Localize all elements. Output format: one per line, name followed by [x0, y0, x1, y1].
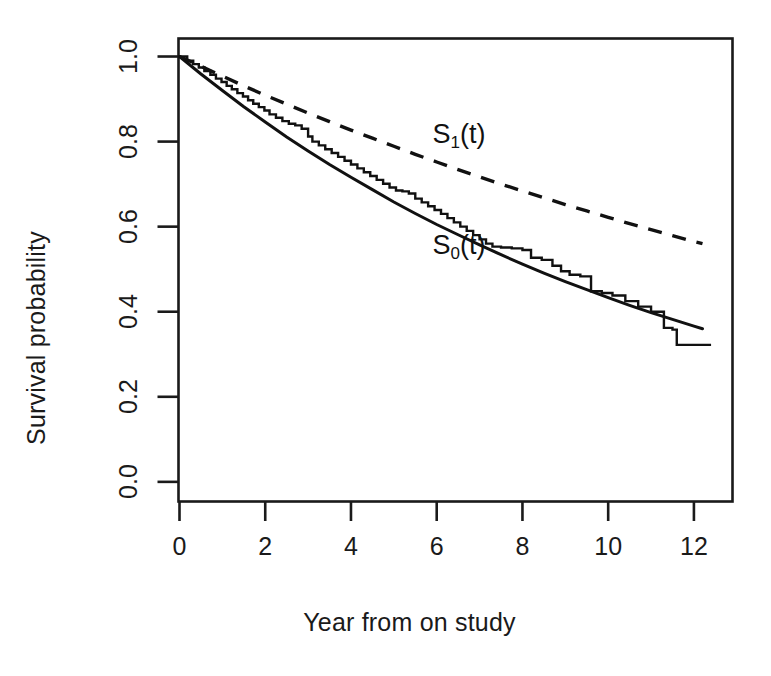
- s1-curve-label: S1(t): [432, 119, 485, 150]
- kaplan-meier-step-curve: [180, 57, 712, 345]
- s0-label-subscript: 0: [450, 244, 459, 263]
- y-tick-label-1.0: 1.0: [113, 26, 142, 86]
- x-tick-label-4: 4: [326, 532, 376, 561]
- y-axis-title: Survival probability: [8, 0, 64, 676]
- y-tick-label-0.2: 0.2: [113, 366, 142, 426]
- s0-label-tail: (t): [460, 230, 485, 260]
- s1-label-base: S: [432, 119, 450, 149]
- y-tick-label-0.0: 0.0: [113, 451, 142, 511]
- s1-label-tail: (t): [460, 119, 485, 149]
- y-tick-label-0.6: 0.6: [113, 196, 142, 256]
- y-tick-label-0.4: 0.4: [113, 281, 142, 341]
- s0-label-base: S: [432, 230, 450, 260]
- x-tick-label-2: 2: [240, 532, 290, 561]
- x-tick-label-6: 6: [412, 532, 462, 561]
- x-axis-tick-marks: [180, 502, 694, 521]
- x-tick-label-12: 12: [669, 532, 719, 561]
- s0-survival-curve: [180, 57, 703, 329]
- survival-plot-figure: 0.00.20.40.60.81.0 024681012 Survival pr…: [0, 0, 771, 676]
- s1-label-subscript: 1: [450, 133, 459, 152]
- x-tick-label-0: 0: [155, 532, 205, 561]
- x-axis-title: Year from on study: [0, 608, 771, 637]
- x-tick-label-8: 8: [497, 532, 547, 561]
- y-tick-label-0.8: 0.8: [113, 111, 142, 171]
- x-tick-label-10: 10: [583, 532, 633, 561]
- s0-curve-label: S0(t): [432, 230, 485, 261]
- y-axis-tick-marks: [158, 57, 179, 482]
